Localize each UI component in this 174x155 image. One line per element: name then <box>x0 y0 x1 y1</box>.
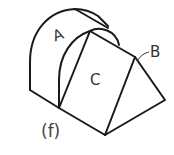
label-c: C <box>90 71 100 89</box>
figure-caption: (f) <box>41 121 60 141</box>
isometric-drawing: A B C (f) <box>0 0 174 155</box>
bottom-left-edge <box>30 90 59 108</box>
label-b: B <box>150 43 160 61</box>
label-a: A <box>50 24 66 45</box>
face-b-outline <box>105 57 165 135</box>
leader-b <box>137 52 149 61</box>
back-arch-curve <box>90 29 119 45</box>
